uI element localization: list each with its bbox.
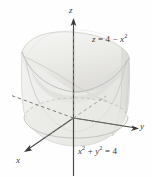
- z-axis-label: z: [69, 6, 73, 15]
- eq-base-value: 4: [112, 146, 117, 156]
- y-axis-arrowhead: [131, 125, 139, 130]
- base-curve-equation-label: x2 + y2 = 4: [78, 147, 117, 156]
- x-axis-arrowhead: [24, 145, 32, 152]
- math-figure-3d-solid: z y x z = 4 − x2 x2 + y2 = 4: [0, 0, 152, 177]
- eq-top-exponent: 2: [124, 32, 127, 39]
- x-axis-label: x: [16, 156, 20, 165]
- figure-canvas: [0, 0, 152, 177]
- y-axis-label: y: [140, 122, 144, 131]
- top-surface-equation-label: z = 4 − x2: [92, 35, 127, 44]
- eq-top-minus: −: [112, 34, 117, 44]
